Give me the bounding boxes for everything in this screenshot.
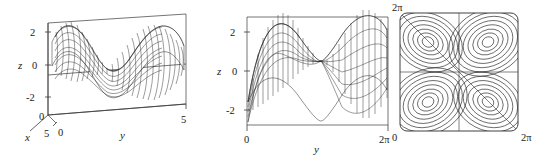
side-y-tick-0: 0 <box>244 134 249 145</box>
surface-origin-label: 0 <box>39 111 44 122</box>
three-panel-figure: 2 0 -2 z 0 x 5 0 y 5 <box>0 0 558 156</box>
contour-svg: 2π 0 2π <box>390 0 558 156</box>
surface-x-tick-5: 5 <box>44 128 49 139</box>
side-y-axis-label: y <box>313 143 319 155</box>
side-view-mesh <box>248 10 387 122</box>
panel-contour-plot: 2π 0 2π <box>390 0 558 156</box>
surface-y-axis-label: y <box>119 129 125 141</box>
side-z-tick-2: 2 <box>230 27 235 38</box>
panel-surface-3d: 2 0 -2 z 0 x 5 0 y 5 <box>0 0 190 156</box>
side-z-axis-label: z <box>216 65 222 77</box>
surface-z-tick-2: 2 <box>30 27 35 38</box>
side-z-tick-0: 0 <box>232 66 237 77</box>
side-y-tick-2pi: 2π <box>379 134 390 145</box>
surface-z-tick-neg2: -2 <box>26 92 35 103</box>
surface-3d-mesh <box>52 22 184 100</box>
surface-y-tick-5: 5 <box>181 114 186 125</box>
surface-x-axis-label: x <box>24 131 30 143</box>
surface-z-axis-label: z <box>17 59 23 71</box>
panel-side-view: 2 0 -2 z 0 2π y <box>190 0 390 156</box>
surface-y-tick-0: 0 <box>58 127 63 138</box>
surface-3d-svg: 2 0 -2 z 0 x 5 0 y 5 <box>0 0 190 156</box>
side-z-tick-neg2: -2 <box>226 105 235 116</box>
contour-label-bottom-right: 2π <box>521 132 532 143</box>
contour-label-top-left: 2π <box>392 2 403 13</box>
surface-z-tick-0: 0 <box>32 60 37 71</box>
contour-label-bottom-left: 0 <box>392 132 397 143</box>
side-view-svg: 2 0 -2 z 0 2π y <box>190 0 390 156</box>
